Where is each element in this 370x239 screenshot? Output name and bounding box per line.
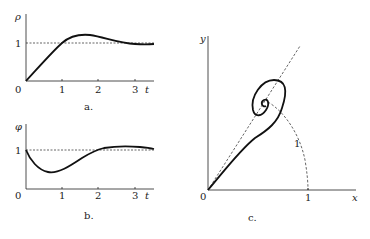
panel-a: ρ 1 0 1 2 3 t a. <box>14 11 154 112</box>
b-xtick-2: 2 <box>95 190 101 201</box>
c-spiral-curve <box>208 80 285 190</box>
panel-c: y 0 1 x 1 c. <box>199 33 358 223</box>
b-caption: b. <box>84 210 94 221</box>
c-xtick-1: 1 <box>305 192 311 203</box>
b-xtick-1: 1 <box>59 190 65 201</box>
a-ytick-1: 1 <box>15 38 21 49</box>
a-xtick-3: 3 <box>132 84 138 95</box>
b-xlabel: t <box>145 190 150 201</box>
a-xtick-2: 2 <box>95 84 101 95</box>
b-origin: 0 <box>15 190 21 201</box>
figure: ρ 1 0 1 2 3 t a. φ 1 0 1 2 3 t b. y 0 1 <box>0 0 370 239</box>
a-xtick-1: 1 <box>59 84 65 95</box>
c-caption: c. <box>248 212 257 223</box>
b-ytick-1: 1 <box>15 145 21 156</box>
a-xlabel: t <box>145 84 150 95</box>
c-origin: 0 <box>200 191 206 202</box>
a-curve <box>26 35 154 81</box>
c-xlabel: x <box>352 192 358 203</box>
panel-b: φ 1 0 1 2 3 t b. <box>15 121 154 221</box>
c-arc-label: 1 <box>294 138 300 149</box>
a-caption: a. <box>84 101 93 112</box>
c-ylabel: y <box>199 33 206 44</box>
a-origin: 0 <box>15 84 21 95</box>
b-ylabel: φ <box>15 121 22 132</box>
a-ylabel: ρ <box>14 11 21 22</box>
c-ray <box>208 46 300 190</box>
b-xtick-3: 3 <box>132 190 138 201</box>
c-unit-arc <box>268 102 308 190</box>
